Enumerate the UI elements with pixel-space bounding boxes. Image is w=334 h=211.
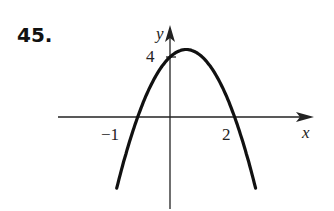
- y-axis-label: y: [156, 25, 164, 42]
- parabola-graph: [0, 0, 334, 211]
- y-tick-label-4: 4: [146, 48, 155, 65]
- x-axis-label: x: [302, 124, 310, 141]
- parabola-curve: [117, 50, 256, 189]
- x-tick-label-neg1: −1: [101, 126, 119, 143]
- x-tick-label-2: 2: [222, 126, 231, 143]
